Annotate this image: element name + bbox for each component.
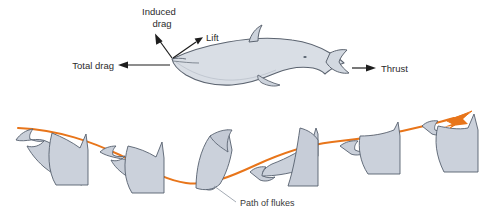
fluke-position-3 [196, 130, 232, 190]
total-drag-arrow [118, 61, 170, 68]
dolphin-hydrodynamics-figure: Total drag Induced drag Lift Thrust [0, 0, 502, 217]
fluke-position-4 [250, 128, 318, 186]
path-of-flukes-label: Path of flukes [240, 198, 295, 208]
induced-drag-label-line2: drag [152, 18, 171, 29]
total-drag-label: Total drag [72, 60, 114, 71]
path-arrowhead [444, 112, 470, 127]
path-of-flukes-leader [214, 186, 236, 202]
pectoral-flipper [258, 75, 280, 86]
top-panel-dolphin: Total drag Induced drag Lift Thrust [72, 6, 408, 86]
dolphin-eye [303, 56, 306, 58]
induced-drag-arrow [155, 34, 172, 59]
fluke-position-5 [340, 122, 400, 174]
induced-drag-label-line1: Induced [142, 6, 176, 17]
fluke-position-2 [100, 142, 164, 193]
bottom-panel-sequence: Path of flukes [16, 111, 478, 208]
thrust-arrow [352, 64, 376, 71]
thrust-label: Thrust [381, 63, 408, 74]
lift-label: Lift [206, 32, 219, 43]
